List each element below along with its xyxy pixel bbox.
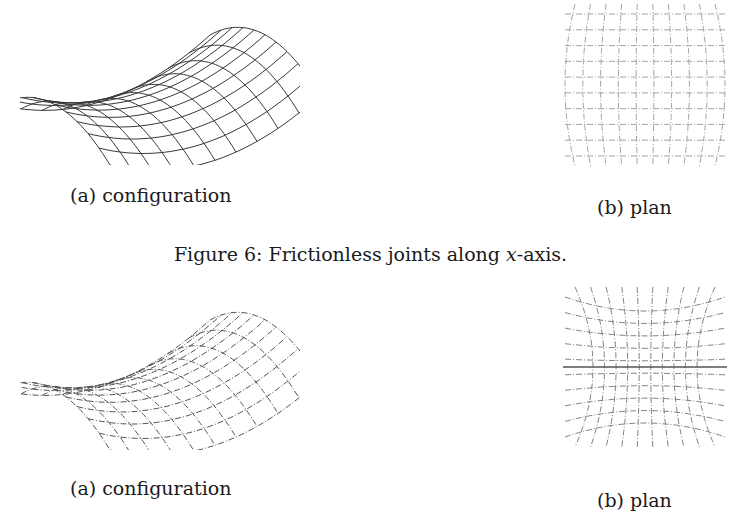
figure-7-plan	[560, 283, 730, 451]
subfigure-6a-label: (a) configuration	[70, 184, 231, 206]
figure-6-plan	[560, 0, 730, 170]
subfigure-7b-label: (b) plan	[597, 489, 672, 511]
saddle-mesh-diagram	[20, 290, 300, 450]
figure-6-caption: Figure 6: Frictionless joints along x-ax…	[0, 243, 741, 265]
saddle-mesh-diagram	[20, 5, 300, 165]
plan-grid-diagram	[560, 0, 730, 170]
figure-7-configuration	[20, 290, 300, 450]
plan-grid-diagram	[560, 283, 730, 451]
caption-math: x	[506, 243, 517, 265]
figure-6-configuration	[20, 5, 300, 165]
caption-suffix: -axis.	[517, 243, 567, 265]
subfigure-7a-label: (a) configuration	[70, 477, 231, 499]
caption-text: Figure 6: Frictionless joints along	[174, 243, 506, 265]
subfigure-6b-label: (b) plan	[597, 196, 672, 218]
